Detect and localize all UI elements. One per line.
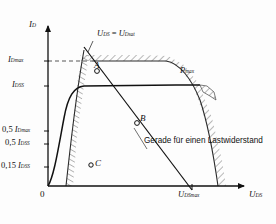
figure-canvas: ID UDS 0 IDmax IDSS 0,5 IDmax 0,5 IDSS 0… bbox=[0, 0, 276, 224]
point-label-a: A bbox=[94, 61, 100, 70]
point-label-c: C bbox=[95, 159, 101, 168]
load-line-caption: Gerade für einen Lastwiderstand bbox=[144, 137, 263, 145]
y-tick-label-idmax: IDmax bbox=[8, 55, 23, 64]
y-tick-label-half-idmax: 0,5 IDmax bbox=[2, 125, 30, 134]
annotation-udsat: UDS = UDsat bbox=[97, 29, 135, 38]
annotation-pmax: Pmax bbox=[180, 66, 194, 75]
y-tick-label-idss: IDSS bbox=[12, 80, 24, 89]
origin-label: 0 bbox=[40, 190, 45, 199]
y-axis-label-subscript: D bbox=[32, 22, 36, 28]
x-tick-label-udsmax: UDSmax bbox=[178, 190, 199, 199]
y-tick-label-015-idss: 0,15 IDSS bbox=[1, 161, 30, 170]
y-tick-label-half-idss: 0,5 IDSS bbox=[5, 138, 30, 147]
x-axis-label: UDS bbox=[249, 190, 262, 199]
y-axis-label: ID bbox=[29, 20, 36, 29]
operating-point-b[interactable] bbox=[135, 121, 140, 126]
hatch-region-ohmic bbox=[66, 55, 89, 186]
leader-line-udsat bbox=[88, 41, 93, 52]
operating-point-c[interactable] bbox=[89, 163, 93, 167]
load-line bbox=[84, 47, 192, 190]
hatch-region-pmax bbox=[80, 55, 226, 186]
x-axis-label-subscript: DS bbox=[256, 192, 263, 198]
point-label-b: B bbox=[140, 114, 146, 123]
